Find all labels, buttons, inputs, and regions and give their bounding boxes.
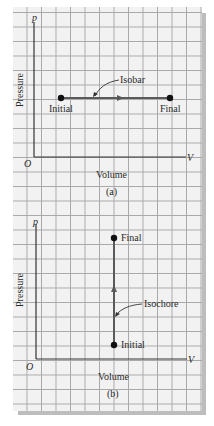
isobar-initial-label: Initial (49, 104, 73, 114)
isobar-initial-point (58, 95, 64, 101)
panel-a-isobar (58, 80, 173, 101)
panel-a-x-axis-symbol: V (187, 153, 193, 163)
isochore-label: Isochore (144, 299, 178, 309)
isobar-final-label: Final (160, 104, 181, 114)
isobar-direction-arrow-icon (117, 95, 124, 101)
panel-b-y-axis-label: Pressure (15, 267, 25, 313)
isochore-final-label: Final (121, 233, 142, 243)
panel-a-axes (34, 22, 186, 157)
isobar-leader-line (95, 80, 119, 96)
isobar-final-point (167, 95, 173, 101)
isochore-leader-line (116, 304, 142, 315)
panel-b-origin-label: O (26, 362, 33, 372)
panel-a-origin-label: O (24, 159, 31, 169)
isochore-leader-arrow-icon (115, 312, 120, 317)
panel-a-y-axis-symbol: p (32, 13, 37, 23)
panel-a-x-axis-label: Volume (96, 170, 127, 180)
panel-b-x-axis-symbol: V (188, 355, 194, 365)
panel-b-x-axis-label: Volume (98, 372, 129, 382)
panel-b-y-axis-symbol: p (33, 217, 38, 227)
panel-a-y-axis-label: Pressure (15, 67, 25, 113)
isochore-initial-point (111, 342, 117, 348)
isobar-label: Isobar (120, 75, 145, 85)
isochore-direction-arrow-icon (111, 285, 117, 292)
isochore-initial-label: Initial (121, 340, 145, 350)
panel-b-caption: (b) (107, 389, 119, 399)
panel-a-caption: (a) (106, 187, 117, 197)
isochore-final-point (111, 235, 117, 241)
panel-b-isochore (111, 235, 142, 348)
